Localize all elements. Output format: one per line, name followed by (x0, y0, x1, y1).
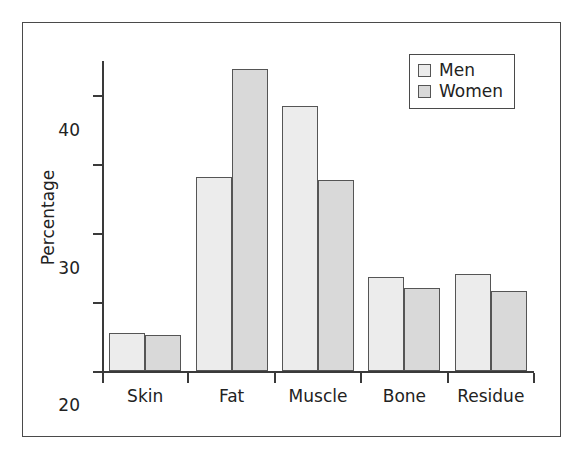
bar-muscle-men (282, 106, 318, 371)
y-axis-tick: 10 (93, 302, 102, 304)
legend-item-men: Men (418, 60, 503, 81)
y-axis-tick: 40 (93, 95, 102, 97)
bar-residue-men (455, 274, 491, 371)
bar-skin-men (109, 333, 145, 371)
x-axis-tick (447, 373, 449, 383)
y-axis-tick: 20 (93, 233, 102, 235)
y-axis-title-text: Percentage (41, 169, 58, 265)
bar-bone-women (404, 288, 440, 371)
y-axis-title: Percentage (37, 61, 61, 373)
bar-residue-women (491, 291, 527, 371)
legend-item-women: Women (418, 81, 503, 102)
chart-legend: Men Women (409, 54, 515, 109)
x-axis-label-bone: Bone (383, 388, 426, 405)
x-axis-tick (533, 373, 535, 383)
y-axis-tick-label: 20 (58, 397, 80, 414)
bar-fat-women (232, 69, 268, 371)
x-axis-label-fat: Fat (219, 388, 244, 405)
bar-skin-women (145, 335, 181, 372)
y-axis-tick: 30 (93, 164, 102, 166)
legend-swatch-women-icon (418, 85, 431, 98)
x-axis-label-muscle: Muscle (289, 388, 348, 405)
x-axis-tick (360, 373, 362, 383)
x-axis-tick (187, 373, 189, 383)
x-axis-label-skin: Skin (127, 388, 163, 405)
legend-label-men: Men (439, 62, 475, 79)
bar-bone-men (368, 277, 404, 371)
chart-figure: Percentage 010203040 SkinFatMuscleBoneRe… (22, 22, 561, 437)
x-axis-line (102, 371, 534, 373)
x-axis-label-residue: Residue (457, 388, 524, 405)
x-axis-tick (274, 373, 276, 383)
x-axis-tick (102, 373, 104, 383)
legend-label-women: Women (439, 83, 503, 100)
legend-swatch-men-icon (418, 64, 431, 77)
y-axis-tick-label: 30 (58, 259, 80, 276)
y-axis-tick-label: 40 (58, 121, 80, 138)
y-axis-line (102, 61, 104, 373)
bar-fat-men (196, 177, 232, 371)
y-axis-tick: 0 (93, 371, 102, 373)
bar-muscle-women (318, 180, 354, 372)
